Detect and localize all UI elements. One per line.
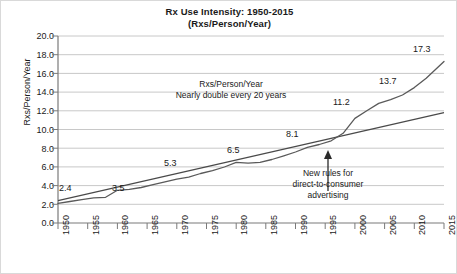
- data-label: 11.2: [333, 98, 350, 107]
- trend-annotation-line2: Nearly double every 20 years: [146, 90, 316, 101]
- x-axis-ticks: [58, 223, 444, 229]
- x-tick-label: 2000: [359, 215, 368, 235]
- x-tick-label: 1950: [62, 215, 71, 235]
- dtc-annotation-line3: advertising: [263, 190, 393, 201]
- x-tick-label: 1985: [270, 215, 279, 235]
- x-tick-label: 1970: [181, 215, 190, 235]
- x-tick-label: 2015: [448, 215, 457, 235]
- data-label: 3.5: [112, 184, 125, 193]
- dtc-annotation-line2: direct-to-consumer: [263, 179, 393, 190]
- x-tick-label: 2010: [418, 215, 427, 235]
- x-tick-label: 1990: [300, 215, 309, 235]
- x-tick-label: 1960: [121, 215, 130, 235]
- data-label: 5.3: [164, 159, 177, 168]
- x-tick-label: 2005: [389, 215, 398, 235]
- dtc-annotation-line1: New rules for: [263, 168, 393, 179]
- x-tick-label: 1955: [92, 215, 101, 235]
- x-tick-label: 1975: [211, 215, 220, 235]
- data-label: 2.4: [59, 184, 72, 193]
- trend-annotation-line1: Rxs/Person/Year: [146, 79, 316, 90]
- x-tick-label: 1995: [329, 215, 338, 235]
- data-label: 17.3: [413, 45, 431, 54]
- data-label: 8.1: [286, 130, 299, 139]
- x-tick-label: 1965: [151, 215, 160, 235]
- x-tick-label: 1980: [240, 215, 249, 235]
- data-label: 13.7: [379, 77, 397, 86]
- dtc-annotation: New rules for direct-to-consumer adverti…: [263, 168, 393, 201]
- chart-container: Rx Use Intensity: 1950-2015 (Rxs/Person/…: [0, 0, 457, 274]
- data-label: 6.5: [227, 146, 240, 155]
- trend-annotation: Rxs/Person/Year Nearly double every 20 y…: [146, 79, 316, 101]
